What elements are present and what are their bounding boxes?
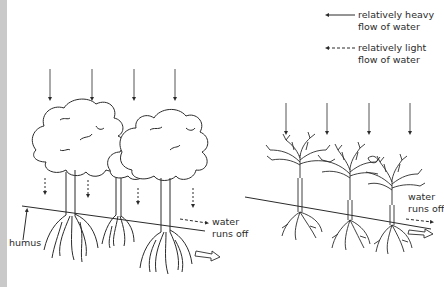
legend-light-line2: flow of water: [358, 54, 426, 66]
right-tree-branches-icon: [266, 132, 425, 225]
right-tree-roots-icon: [282, 212, 412, 254]
legend-heavy-label: relatively heavy flow of water: [358, 9, 434, 33]
right-ground-line: [245, 197, 431, 229]
legend-heavy-line1: relatively heavy: [358, 9, 434, 21]
legend-light-label: relatively light flow of water: [358, 42, 426, 66]
left-drip-arrows-icon: [45, 178, 193, 206]
left-runoff-line2: runs off: [212, 228, 248, 240]
right-runoff-dashed-arrow-icon: [406, 219, 432, 222]
left-runoff-line1: water: [212, 216, 248, 228]
left-runoff-hollow-arrow-icon: [195, 251, 220, 261]
right-runoff-line2: runs off: [408, 203, 444, 215]
legend-light-line1: relatively light: [358, 42, 426, 54]
right-runoff-line1: water: [408, 191, 444, 203]
left-ground-line: [22, 206, 205, 231]
left-tree-canopies-icon: [32, 99, 207, 180]
right-runoff-hollow-arrow-icon: [408, 229, 433, 238]
left-runoff-dashed-arrow-icon: [180, 219, 207, 223]
legend-heavy-line2: flow of water: [358, 21, 434, 33]
humus-pointer-arrow-icon: [23, 210, 27, 240]
left-runoff-label: water runs off: [212, 216, 248, 240]
right-runoff-label: water runs off: [408, 191, 444, 215]
left-tree-trunks-icon: [66, 170, 170, 232]
right-rain-arrows-icon: [286, 103, 410, 133]
humus-label: humus: [9, 237, 41, 249]
left-rain-arrows-icon: [50, 69, 175, 99]
